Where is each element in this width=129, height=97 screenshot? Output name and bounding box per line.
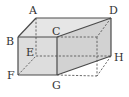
cuboid-diagram: A B C D E F G H [0, 0, 129, 97]
vertex-label-e: E [26, 46, 34, 59]
vertex-label-d: D [109, 4, 118, 17]
vertex-label-b: B [6, 35, 14, 48]
vertex-label-f: F [7, 69, 15, 82]
vertex-label-g: G [52, 79, 61, 92]
vertex-label-c: C [52, 25, 60, 38]
vertex-label-h: H [114, 51, 124, 64]
vertex-label-a: A [28, 4, 38, 17]
hidden-edge-g-right [57, 75, 97, 76]
